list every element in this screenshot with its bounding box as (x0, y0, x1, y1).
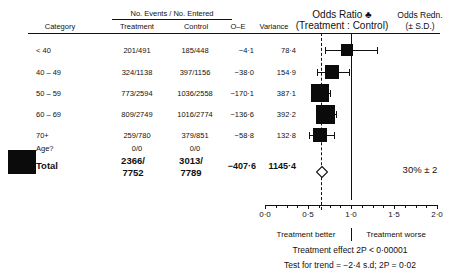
row-treatment: 809/2749 (108, 110, 166, 119)
axis-tick-label: 0·5 (296, 210, 320, 219)
row-variance: 392·2 (254, 110, 296, 119)
axis-tick-minor (340, 205, 341, 208)
row-variance: 387·1 (254, 89, 296, 98)
total-treatment-line1: 2366/ (104, 155, 162, 166)
total-marker-swatch (8, 150, 36, 174)
axis-tick-minor (405, 205, 406, 208)
row-variance: 78·4 (254, 46, 296, 55)
row-o-minus-e: −136·6 (220, 110, 254, 119)
confidence-interval-cap (309, 132, 310, 139)
axis-tick-minor (287, 205, 288, 208)
axis-tick-minor (276, 205, 277, 208)
footer-separator (351, 228, 352, 241)
row-treatment: 259/780 (108, 131, 166, 140)
row-variance: 154·9 (254, 68, 296, 77)
axis-tick-minor (416, 205, 417, 208)
total-treatment-line2: 7752 (104, 167, 162, 178)
axis-tick-label: 0·0 (253, 210, 277, 219)
row-control: 379/851 (166, 131, 224, 140)
column-header-odds-redn-sub: (± S.D.) (392, 21, 448, 31)
row-treatment: 324/1138 (108, 68, 166, 77)
axis-tick-minor (373, 205, 374, 208)
row-variance: 132·8 (254, 131, 296, 140)
header-rule (28, 33, 440, 34)
column-header-control: Control (170, 22, 222, 31)
confidence-interval-cap (317, 69, 318, 76)
column-header-odds-redn: Odds Redn. (392, 10, 448, 20)
total-control-line1: 3013/ (162, 155, 220, 166)
total-label: Total (36, 160, 58, 171)
total-control-line2: 7789 (162, 167, 220, 178)
axis-tick-label: 2·0 (425, 210, 449, 219)
column-header-odds-ratio-sub: (Treatment : Control) (282, 20, 402, 31)
axis-tick-major (437, 205, 438, 209)
confidence-interval-cap (377, 47, 378, 54)
label-treatment-worse: Treatment worse (358, 230, 434, 239)
row-category: Age? (36, 144, 106, 153)
total-odds-reduction: 30% ± 2 (392, 164, 448, 175)
column-header-category: Category (30, 22, 90, 31)
column-header-treatment: Treatment (110, 22, 164, 31)
row-category: < 40 (36, 46, 106, 55)
row-o-minus-e: −170·1 (220, 89, 254, 98)
column-header-events-entered: No. Events / No. Entered (112, 9, 232, 20)
forest-box-marker (311, 84, 330, 103)
row-category: 50 – 59 (36, 89, 106, 98)
row-category: 60 – 69 (36, 110, 106, 119)
confidence-interval-cap (325, 47, 326, 54)
confidence-interval-cap (330, 90, 331, 97)
label-treatment-better: Treatment better (268, 230, 344, 239)
row-category: 70+ (36, 131, 106, 140)
row-treatment: 0/0 (108, 144, 166, 153)
axis-tick-minor (426, 205, 427, 208)
confidence-interval-cap (336, 111, 337, 118)
axis-tick-label: 1·5 (382, 210, 406, 219)
axis-tick-minor (383, 205, 384, 208)
row-control: 397/1156 (166, 68, 224, 77)
forest-box-marker (313, 128, 327, 142)
row-treatment: 201/491 (108, 46, 166, 55)
total-variance: 1145·4 (256, 161, 296, 171)
axis-tick-major (394, 205, 395, 209)
axis-tick-minor (330, 205, 331, 208)
axis-tick-minor (362, 205, 363, 208)
confidence-interval-cap (334, 132, 335, 139)
axis-tick-major (351, 205, 352, 209)
row-o-minus-e: −38·0 (220, 68, 254, 77)
column-header-o-minus-e: O–E (224, 22, 252, 31)
axis-tick-label: 1·0 (339, 210, 363, 219)
row-treatment: 773/2594 (108, 89, 166, 98)
trend-test-statistic: Test for trend = −2·4 s.d; 2P = 0·02 (252, 260, 448, 270)
axis-tick-minor (297, 205, 298, 208)
row-o-minus-e: −58·8 (220, 131, 254, 140)
axis-tick-minor (319, 205, 320, 208)
forest-box-marker (341, 44, 353, 56)
null-reference-line (351, 33, 352, 200)
forest-box-marker (316, 105, 335, 124)
axis-tick-major (308, 205, 309, 209)
row-control: 1036/2558 (166, 89, 224, 98)
forest-box-marker (325, 65, 339, 79)
row-control: 0/0 (166, 144, 224, 153)
row-control: 1016/2774 (166, 110, 224, 119)
row-control: 185/448 (166, 46, 224, 55)
summary-diamond-icon (316, 166, 328, 178)
column-header-odds-ratio: Odds Ratio ♣ (282, 9, 402, 20)
total-o-minus-e: −407·6 (218, 161, 256, 171)
row-category: 40 – 49 (36, 68, 106, 77)
confidence-interval-cap (349, 69, 350, 76)
axis-tick-major (265, 205, 266, 209)
row-o-minus-e: −4·1 (220, 46, 254, 55)
treatment-effect-statistic: Treatment effect 2P < 0·00001 (252, 245, 448, 255)
